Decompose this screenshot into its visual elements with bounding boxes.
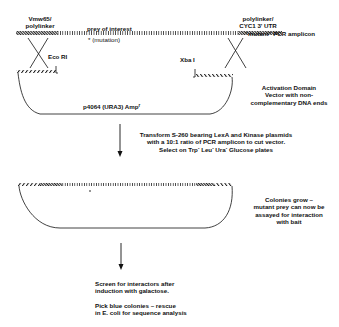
right-flank-line1: polylinker/ — [230, 15, 286, 22]
right-crossover — [225, 38, 246, 68]
colonies-line3: assayed for interaction — [248, 211, 330, 218]
vector-desc-line3: complementary DNA ends — [248, 99, 330, 106]
colonies-line4: with bait — [248, 218, 330, 225]
transform-line2: with a 10:1 ratio of PCR amplicon to cut… — [130, 138, 302, 145]
select-leu: Leu — [199, 146, 212, 153]
pick-line2: in E. coli for sequence analysis — [95, 309, 187, 316]
prey-label: prey of interest — [87, 25, 132, 32]
colonies-line1: Colonies grow – — [248, 196, 330, 203]
arrow-1 — [118, 124, 123, 157]
mutation-label: * (mutation) — [88, 36, 120, 43]
colonies-line2: mutant prey can now be — [248, 203, 330, 210]
transform-line3: Select on Trp- Leu- Ura- Glucose plates — [130, 146, 302, 153]
select-trp: Select on Trp — [159, 146, 198, 153]
transform-line1: Transform S-260 bearing LexA and Kinase … — [130, 131, 302, 138]
pick-instructions: Pick blue colonies – rescue in E. coli f… — [95, 302, 187, 317]
screen-line2: induction with galactose. — [95, 287, 174, 294]
pcr-amplicon — [16, 31, 282, 35]
arrow-2 — [119, 243, 124, 270]
colonies-description: Colonies grow – mutant prey can now be a… — [248, 196, 330, 226]
screen-line1: Screen for interactors after — [95, 280, 174, 287]
left-flank-label: Vmw65/ polylinker — [18, 15, 62, 30]
vector-desc-line2: Vector with non- — [248, 91, 330, 98]
ecori-site-label: Eco RI — [48, 53, 67, 60]
right-flank-label: polylinker/ CYC1 3' UTR — [230, 15, 286, 30]
transform-instructions: Transform S-260 bearing LexA and Kinase … — [130, 131, 302, 153]
amplicon-label: "mutant" PCR amplicon — [245, 30, 315, 37]
recombined-plasmid — [18, 183, 232, 228]
screen-instructions: Screen for interactors after induction w… — [95, 280, 174, 295]
left-flank-line1: Vmw65/ — [18, 15, 62, 22]
pick-line1: Pick blue colonies – rescue — [95, 302, 187, 309]
xbai-site-label: Xba I — [180, 56, 195, 63]
vector-description: Activation Domain Vector with non- compl… — [248, 84, 330, 106]
vector-desc-line1: Activation Domain — [248, 84, 330, 91]
left-flank-line2: polylinker — [18, 22, 62, 29]
workflow-diagram — [0, 0, 339, 327]
vector-name: p4064 (URA3) Amp — [83, 103, 138, 110]
select-glucose: Glucose plates — [227, 146, 273, 153]
select-ura: Ura — [214, 146, 226, 153]
right-flank-line2: CYC1 3' UTR — [230, 22, 286, 29]
vector-name-sup: r — [138, 103, 140, 108]
left-crossover — [28, 38, 48, 68]
vector-name-label: p4064 (URA3) Ampr — [83, 103, 140, 110]
